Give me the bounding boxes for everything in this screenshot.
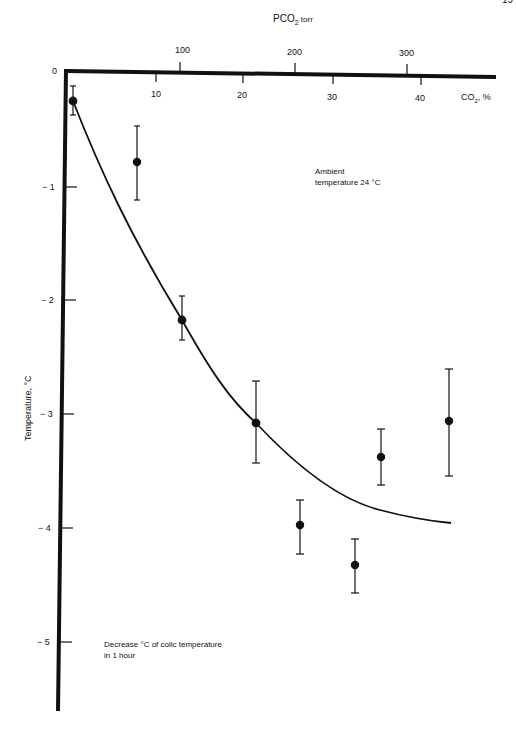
data-point xyxy=(133,126,140,200)
x-axis xyxy=(66,71,496,77)
y-tick-label: − 5 xyxy=(37,637,50,647)
data-point xyxy=(252,381,260,463)
data-point xyxy=(445,369,453,476)
y-tick-label: − 4 xyxy=(38,523,51,533)
fitted-curve xyxy=(73,101,451,523)
data-points xyxy=(69,86,453,593)
y-tick-label: − 1 xyxy=(42,182,55,192)
data-point xyxy=(377,429,385,485)
chart-plot xyxy=(0,0,516,733)
y-axis xyxy=(58,69,66,711)
x-tick-label: 10 xyxy=(151,89,161,99)
ambient-annotation: Ambient temperature 24 °C xyxy=(315,166,380,188)
data-point xyxy=(296,500,304,554)
x2-axis-title: PCO2 torr xyxy=(273,13,313,28)
x-tick-label: 20 xyxy=(237,90,247,100)
x2-tick-label: 200 xyxy=(287,47,302,57)
data-point xyxy=(69,86,77,115)
decrease-annotation: Decrease °C of colic temperature in 1 ho… xyxy=(104,639,222,661)
y-tick-label: − 2 xyxy=(41,295,54,305)
data-point xyxy=(351,539,359,593)
y-tick-label: − 3 xyxy=(40,409,53,419)
data-point xyxy=(178,296,186,340)
y-axis-title: Temperature, °C xyxy=(23,375,33,441)
x-tick-label: 30 xyxy=(327,92,337,102)
x-axis-title: CO2, % xyxy=(461,92,491,107)
y-tick-label: 0 xyxy=(52,66,57,76)
x2-tick-label: 100 xyxy=(175,45,190,55)
x2-tick-label: 300 xyxy=(399,48,414,58)
x-tick-label: 40 xyxy=(415,93,425,103)
page-number: 19 xyxy=(502,0,513,5)
